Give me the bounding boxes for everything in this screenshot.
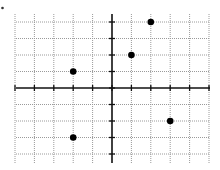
data-point bbox=[167, 118, 174, 125]
data-point bbox=[148, 19, 155, 26]
data-point bbox=[70, 68, 77, 75]
coordinate-plane bbox=[0, 0, 220, 170]
data-point bbox=[128, 52, 135, 59]
background bbox=[0, 0, 220, 170]
data-point bbox=[70, 134, 77, 141]
stray-mark bbox=[1, 7, 4, 10]
